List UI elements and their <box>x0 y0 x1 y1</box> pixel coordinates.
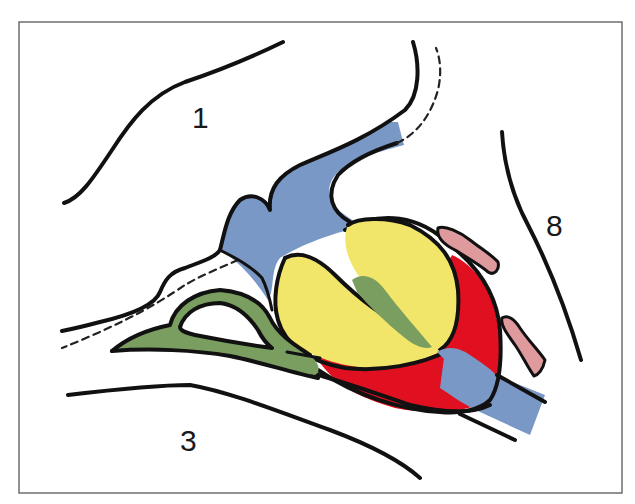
label-1: 1 <box>192 101 209 134</box>
label-3: 3 <box>180 424 197 457</box>
diagram-canvas: 1 3 8 <box>0 0 635 504</box>
label-8: 8 <box>546 209 563 242</box>
